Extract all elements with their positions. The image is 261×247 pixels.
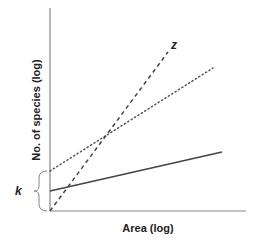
- z-label: z: [170, 38, 177, 52]
- k-label: k: [15, 184, 23, 198]
- k-brace-icon: [34, 171, 47, 211]
- dotted-line: [50, 68, 213, 171]
- x-axis-label: Area (log): [122, 222, 174, 234]
- solid-line: [50, 152, 222, 191]
- species-area-diagram: z k No. of species (log) Area (log): [0, 0, 261, 247]
- y-axis-label: No. of species (log): [30, 59, 42, 161]
